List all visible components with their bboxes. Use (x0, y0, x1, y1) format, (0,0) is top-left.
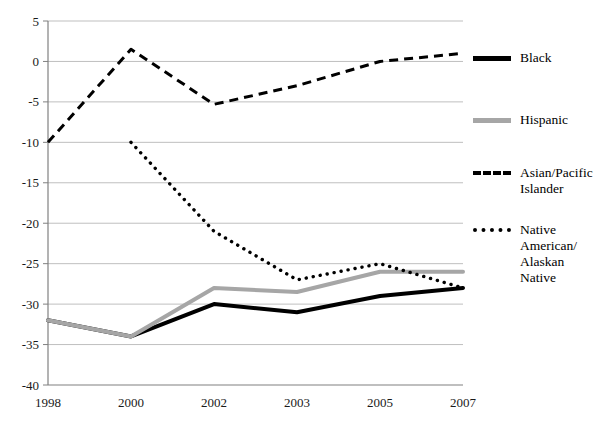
legend-item-label: Asian/Pacific Islander (520, 165, 593, 197)
y-axis-tick-label: -30 (22, 297, 39, 312)
y-axis-tick-label: -40 (22, 378, 39, 393)
x-axis-tick-label: 2005 (367, 395, 393, 410)
legend-item-dotted-line[interactable]: Native American/ Alaskan Native (473, 222, 577, 286)
legend-item-label: Hispanic (520, 112, 568, 128)
legend-item-dashed-line[interactable]: Asian/Pacific Islander (473, 165, 593, 197)
x-axis-tick-label: 2003 (284, 395, 310, 410)
data-series-line (48, 49, 463, 142)
y-axis-tick-label: -15 (22, 175, 39, 190)
x-axis-tick-label: 1998 (35, 395, 61, 410)
legend-item-label: Black (520, 50, 552, 66)
data-series-line (131, 142, 463, 288)
x-axis-tick-label: 2000 (118, 395, 144, 410)
x-axis-tick-label: 2007 (450, 395, 477, 410)
dotted-line-icon (473, 222, 511, 238)
solid-black-line-icon (473, 50, 511, 66)
y-axis-tick-label: -10 (22, 135, 39, 150)
y-axis-tick-label: 0 (33, 54, 40, 69)
y-axis-tick-label: -5 (28, 94, 39, 109)
solid-gray-line-icon (473, 112, 511, 128)
y-axis-tick-label: 5 (33, 14, 40, 29)
y-axis-tick-label: -20 (22, 216, 39, 231)
dashed-line-icon (473, 165, 511, 181)
legend-item-solid-gray-line[interactable]: Hispanic (473, 112, 568, 128)
y-axis-tick-label: -35 (22, 337, 39, 352)
data-series-line (48, 288, 463, 337)
legend-item-label: Native American/ Alaskan Native (520, 222, 577, 286)
legend-item-solid-black-line[interactable]: Black (473, 50, 552, 66)
y-axis-tick-label: -25 (22, 256, 39, 271)
x-axis-tick-label: 2002 (201, 395, 227, 410)
